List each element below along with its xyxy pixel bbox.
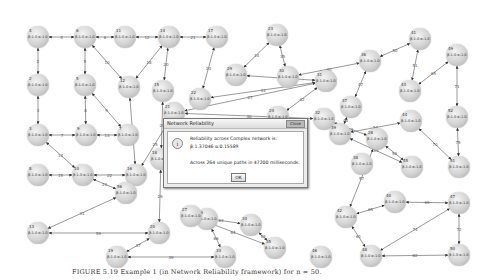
edge-label: 57 [359,176,365,181]
edge-label: 2 [37,59,40,64]
node-46[interactable]: 46β:1.0 α:1.0 [310,246,332,268]
node-id: 22 [191,91,196,95]
node-value: β:1.0 α:1.0 [116,191,136,195]
node-value: β:1.0 α:1.0 [401,119,421,123]
node-value: β:1.0 α:1.0 [190,97,210,101]
node-22[interactable]: 22β:1.0 α:1.0 [189,88,211,110]
node-id: 7 [119,127,122,131]
node-id: 41 [411,31,416,35]
edge-label: 42 [299,97,305,102]
node-id: 13 [29,225,34,229]
node-31[interactable]: 31β:1.0 α:1.0 [315,70,337,92]
node-id: 43 [401,83,406,87]
node-3[interactable]: 3β:1.0 α:1.0 [27,124,49,146]
node-40[interactable]: 40β:1.0 α:1.0 [384,191,406,213]
edge-label: 21 [190,35,196,40]
node-19[interactable]: 19β:1.0 α:1.0 [106,246,128,268]
node-id: 16 [127,167,132,171]
node-23[interactable]: 23β:1.0 α:1.0 [266,24,288,46]
node-value: β:1.0 α:1.0 [28,173,48,177]
node-50[interactable]: 50β:1.0 α:1.0 [448,244,470,266]
node-39[interactable]: 39β:1.0 α:1.0 [329,123,351,145]
node-51[interactable]: 51β:1.0 α:1.0 [448,156,470,178]
edge-label: 20 [163,62,169,67]
node-14[interactable]: 14β:1.0 α:1.0 [158,26,180,48]
node-17[interactable]: 17β:1.0 α:1.0 [206,26,228,48]
node-id: 38 [353,156,358,160]
edge-label: 25 [152,142,158,147]
node-value: β:1.0 α:1.0 [115,35,135,39]
edge-label: 72 [456,227,462,232]
node-2[interactable]: 2β:1.0 α:1.0 [27,74,49,96]
node-id: 34 [242,217,247,221]
figure-caption: FIGURE 5.19 Example 1 (in Network Reliab… [72,268,322,276]
node-35[interactable]: 35β:1.0 α:1.0 [264,237,286,259]
node-value: β:1.0 α:1.0 [341,105,361,109]
node-42[interactable]: 42β:1.0 α:1.0 [335,206,357,228]
ok-button[interactable]: OK [231,173,246,182]
node-value: β:1.0 α:1.0 [267,33,287,37]
node-value: β:1.0 α:1.0 [28,83,48,87]
node-44[interactable]: 44β:1.0 α:1.0 [400,110,422,132]
info-icon: i [172,138,183,149]
node-7[interactable]: 7β:1.0 α:1.0 [117,124,139,146]
node-value: β:1.0 α:1.0 [367,137,387,141]
edge-label: 50 [392,48,398,53]
edge-label: 71 [454,84,460,89]
node-13[interactable]: 13β:1.0 α:1.0 [27,222,49,244]
node-47[interactable]: 47β:1.0 α:1.0 [448,192,470,214]
node-id: 50 [450,247,455,251]
node-id: 47 [450,195,455,199]
edge-label: 37 [135,243,141,248]
node-5[interactable]: 5β:1.0 α:1.0 [74,74,96,96]
node-27[interactable]: 27β:1.0 α:1.0 [180,205,202,227]
node-id: 32 [315,111,320,115]
node-33[interactable]: 33β:1.0 α:1.0 [214,246,236,268]
node-20[interactable]: 20β:1.0 α:1.0 [148,222,170,244]
node-10[interactable]: 10β:1.0 α:1.0 [72,164,94,186]
node-9[interactable]: 9β:1.0 α:1.0 [75,124,97,146]
node-6[interactable]: 6β:1.0 α:1.0 [74,26,96,48]
node-34[interactable]: 34β:1.0 α:1.0 [240,214,262,236]
node-value: β:1.0 α:1.0 [28,35,48,39]
edge-label: 15 [58,173,64,178]
node-36[interactable]: 36β:1.0 α:1.0 [359,50,381,72]
node-30[interactable]: 30β:1.0 α:1.0 [277,66,299,88]
node-15[interactable]: 15β:1.0 α:1.0 [152,80,174,102]
node-value: β:1.0 α:1.0 [181,214,201,218]
node-49[interactable]: 49β:1.0 α:1.0 [446,44,468,66]
node-52[interactable]: 52β:1.0 α:1.0 [446,106,468,128]
node-value: β:1.0 α:1.0 [311,255,331,259]
node-value: β:1.0 α:1.0 [241,223,261,227]
node-value: β:1.0 α:1.0 [360,59,380,63]
node-12[interactable]: 12β:1.0 α:1.0 [118,76,140,98]
node-56[interactable]: 56β:1.0 α:1.0 [115,182,137,204]
node-id: 8 [29,167,32,171]
node-43[interactable]: 43β:1.0 α:1.0 [399,80,421,102]
node-8[interactable]: 8β:1.0 α:1.0 [27,164,49,186]
node-4[interactable]: 4β:1.0 α:1.0 [27,26,49,48]
edge-label: 4 [60,35,63,40]
node-value: β:1.0 α:1.0 [449,201,469,205]
edge-label: 18 [146,60,152,65]
node-28[interactable]: 28β:1.0 α:1.0 [366,128,388,150]
node-48[interactable]: 48β:1.0 α:1.0 [360,245,382,267]
node-value: β:1.0 α:1.0 [28,231,48,235]
node-id: 19 [108,249,113,253]
network-reliability-dialog: Network Reliability Close i Reliability … [163,118,308,188]
node-41[interactable]: 41β:1.0 α:1.0 [409,28,431,50]
node-id: 10 [74,167,79,171]
edge-label: 70 [432,142,438,147]
edge-label: 12 [144,35,150,40]
node-id: 37 [342,99,347,103]
node-value: β:1.0 α:1.0 [402,165,422,169]
close-button[interactable]: Close [286,120,305,128]
edge-label: 51 [412,63,418,68]
node-45[interactable]: 45β:1.0 α:1.0 [401,156,423,178]
node-38[interactable]: 38β:1.0 α:1.0 [351,153,373,175]
dialog-titlebar[interactable]: Network Reliability Close [164,119,307,129]
node-37[interactable]: 37β:1.0 α:1.0 [340,96,362,118]
node-11[interactable]: 11β:1.0 α:1.0 [114,26,136,48]
node-29[interactable]: 29β:1.0 α:1.0 [225,64,247,86]
edge-label: 74 [412,227,418,232]
